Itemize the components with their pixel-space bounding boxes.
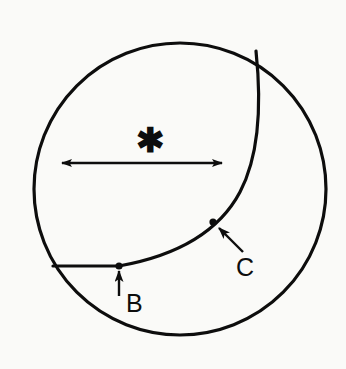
point-c-dot	[209, 218, 216, 225]
diagram-canvas: ✱ C B	[0, 0, 346, 369]
point-c-pointer-arrow	[219, 228, 243, 252]
point-b-dot	[115, 262, 122, 269]
asterisk-marker: ✱	[136, 121, 164, 159]
point-b-label: B	[126, 289, 143, 317]
point-c-label: C	[236, 253, 254, 281]
diagram-page: ✱ C B	[0, 0, 346, 369]
outer-circle	[34, 43, 326, 335]
